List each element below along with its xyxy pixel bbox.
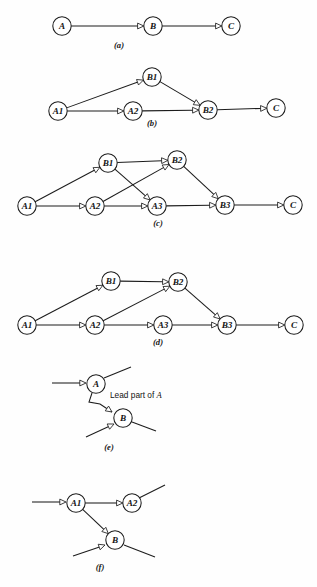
node-label-A2: A2 xyxy=(89,201,101,211)
node-a-C[interactable]: C xyxy=(222,17,240,35)
node-c-B2[interactable]: B2 xyxy=(168,151,186,169)
node-label-A2: A2 xyxy=(89,320,101,330)
node-d-A3[interactable]: A3 xyxy=(154,316,172,334)
arrowhead-f-incoming-left-a1 xyxy=(60,499,66,505)
node-e-B[interactable]: B xyxy=(114,409,132,427)
node-label-B3: B3 xyxy=(221,320,233,330)
arrowhead-c-B1-B2 xyxy=(161,158,167,164)
arrowhead-b-A1-A2 xyxy=(118,108,124,114)
arrowhead-d-B3-C xyxy=(279,322,285,328)
node-d-A1[interactable]: A1 xyxy=(18,316,36,334)
node-c-A2[interactable]: A2 xyxy=(86,197,104,215)
edge-c-A2-to-B2 xyxy=(103,167,164,201)
node-e-A[interactable]: A xyxy=(87,375,105,393)
stub-e-outgoing-right-b xyxy=(132,422,156,431)
node-label-C: C xyxy=(291,320,298,330)
node-b-A2[interactable]: A2 xyxy=(124,102,142,120)
node-label-B2: B2 xyxy=(171,155,183,165)
node-label-B: B xyxy=(119,413,126,423)
node-label-A1: A1 xyxy=(21,201,33,211)
node-label-C: C xyxy=(290,200,297,210)
node-label-B1: B1 xyxy=(146,72,158,82)
arrowhead-e-A-B xyxy=(105,406,112,412)
node-b-A1[interactable]: A1 xyxy=(49,102,67,120)
node-c-C[interactable]: C xyxy=(284,196,302,214)
panel-a: ABC(a) xyxy=(53,17,240,50)
stub-e-incoming-lowleft-b xyxy=(86,426,109,437)
node-label-A2: A2 xyxy=(127,106,139,116)
node-label-A2: A2 xyxy=(126,498,138,508)
arrowhead-f-incoming-lowleft-b xyxy=(98,544,105,549)
node-d-B1[interactable]: B1 xyxy=(102,272,120,290)
caption-f: (f) xyxy=(96,562,105,572)
arrowhead-d-A1-A2 xyxy=(80,322,86,328)
caption-c: (c) xyxy=(153,218,163,228)
arrowhead-b-B1-B2 xyxy=(193,100,200,106)
arrowhead-b-A2-B2 xyxy=(193,107,199,113)
arrowhead-c-A1-A2 xyxy=(80,203,86,209)
node-label-B: B xyxy=(149,21,156,31)
panel-f: A1A2B(f) xyxy=(32,485,165,572)
arrowhead-d-A1-B1 xyxy=(96,285,103,290)
panel-b: A1A2B1B2C(b) xyxy=(49,68,285,128)
edge-d-A1-to-B1 xyxy=(35,288,98,321)
arrowhead-c-A1-B1 xyxy=(93,167,100,172)
node-d-B2[interactable]: B2 xyxy=(169,273,187,291)
caption-a: (a) xyxy=(114,40,124,50)
node-label-A1: A1 xyxy=(52,106,64,116)
panel-e: ABLead part of A(e) xyxy=(52,367,163,452)
node-label-B: B xyxy=(111,535,118,545)
node-d-A2[interactable]: A2 xyxy=(86,316,104,334)
node-label-A1: A1 xyxy=(21,320,33,330)
arrowhead-d-A3-B3 xyxy=(212,322,218,328)
edge-d-A2-to-B2 xyxy=(103,289,165,321)
node-label-B1: B1 xyxy=(102,158,114,168)
node-a-B[interactable]: B xyxy=(144,17,162,35)
node-label-B2: B2 xyxy=(202,105,214,115)
arrowhead-e-incoming-left-a xyxy=(80,380,86,386)
panel-d: A1A2A3B1B2B3C(d) xyxy=(18,272,303,347)
arrowhead-d-B1-B2 xyxy=(163,279,169,285)
node-f-A1[interactable]: A1 xyxy=(67,494,85,512)
node-label-A3: A3 xyxy=(151,201,163,211)
node-c-B1[interactable]: B1 xyxy=(99,154,117,172)
arrowhead-b-B2-C xyxy=(261,106,267,112)
stub-f-incoming-lowleft-b xyxy=(73,547,100,556)
node-c-A3[interactable]: A3 xyxy=(148,197,166,215)
stub-e-outgoing-upright-a xyxy=(104,367,131,378)
arrowhead-f-A1-A2 xyxy=(117,500,123,506)
node-label-B1: B1 xyxy=(105,276,117,286)
caption-d: (d) xyxy=(153,337,163,347)
node-f-A2[interactable]: A2 xyxy=(123,494,141,512)
node-f-B[interactable]: B xyxy=(106,531,124,549)
edge-d-B1-to-B2 xyxy=(120,281,163,282)
node-c-A1[interactable]: A1 xyxy=(18,197,36,215)
node-label-A3: A3 xyxy=(157,320,169,330)
caption-e: (e) xyxy=(104,442,114,452)
node-label-A: A xyxy=(92,379,99,389)
arrowhead-e-incoming-lowleft-b xyxy=(107,424,114,429)
panel-c: A1A2A3B1B2B3C(c) xyxy=(18,151,302,228)
node-a-A[interactable]: A xyxy=(53,17,71,35)
node-d-B3[interactable]: B3 xyxy=(218,316,236,334)
edge-f-A1-to-B xyxy=(83,509,104,529)
edge-b-B2-to-C xyxy=(217,108,261,109)
arrowhead-a-B-C xyxy=(216,23,222,29)
edge-c-B2-to-B3 xyxy=(184,166,214,194)
node-label-C: C xyxy=(228,21,235,31)
edge-c-B1-to-B2 xyxy=(117,161,162,163)
annotation-lead-part-e: Lead part of A xyxy=(110,390,163,400)
edge-d-B2-to-B3 xyxy=(185,288,216,315)
node-b-B2[interactable]: B2 xyxy=(199,101,217,119)
figure-page: ABC(a)A1A2B1B2C(b)A1A2A3B1B2B3C(c)A1A2A3… xyxy=(0,0,317,587)
stub-f-outgoing-right-b xyxy=(124,545,155,557)
node-label-C: C xyxy=(273,103,280,113)
node-c-B3[interactable]: B3 xyxy=(216,196,234,214)
graph-figure-svg: ABC(a)A1A2B1B2C(b)A1A2A3B1B2B3C(c)A1A2A3… xyxy=(0,0,317,587)
node-d-C[interactable]: C xyxy=(285,316,303,334)
node-b-C[interactable]: C xyxy=(267,99,285,117)
edge-b-B1-to-B2 xyxy=(160,82,195,103)
edge-c-A3-to-B3 xyxy=(166,205,210,206)
node-b-B1[interactable]: B1 xyxy=(143,68,161,86)
arrowhead-a-A-B xyxy=(138,23,144,29)
